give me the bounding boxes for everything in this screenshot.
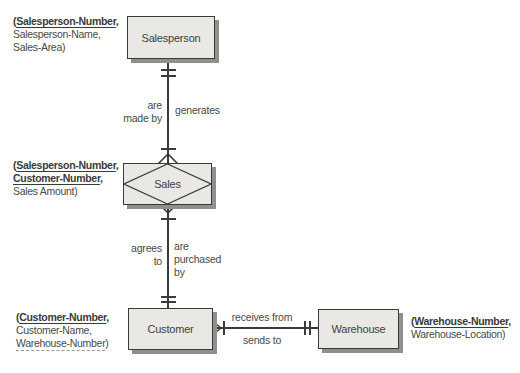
- relationship-label-sends-to: sends to: [219, 334, 305, 347]
- entity-salesperson-label: Salesperson: [139, 32, 204, 44]
- entity-customer: Customer: [128, 308, 213, 350]
- entity-sales-label: Sales: [151, 178, 184, 190]
- attribute-line: Customer-Number,: [13, 172, 118, 185]
- entity-customer-label: Customer: [144, 323, 196, 335]
- entity-warehouse-label: Warehouse: [328, 323, 388, 335]
- attribute-line: Customer-Name,: [16, 324, 109, 337]
- relationship-label-agrees-to: agrees to: [131, 242, 162, 268]
- customer-attribute-list: (Customer-Number, Customer-Name, Warehou…: [16, 311, 109, 350]
- primary-key-attribute: Warehouse-Number: [414, 315, 508, 327]
- entity-warehouse: Warehouse: [318, 309, 399, 349]
- relationship-label-are-made-by: are made by: [123, 99, 162, 125]
- primary-key-attribute: Salesperson-Number: [16, 15, 116, 27]
- attribute-line: (Salesperson-Number,: [13, 159, 118, 172]
- primary-key-attribute: Customer-Number: [13, 172, 100, 184]
- relationship-label-generates: generates: [175, 104, 220, 117]
- attribute-line: Salesperson-Name,: [13, 28, 118, 41]
- entity-sales: Sales: [123, 163, 212, 205]
- primary-key-attribute: Salesperson-Number: [16, 159, 116, 171]
- attribute-line: Sales-Area): [13, 41, 118, 54]
- entity-salesperson: Salesperson: [127, 16, 215, 59]
- attribute-line: (Warehouse-Number,: [411, 315, 511, 328]
- attribute-line: Warehouse-Number): [16, 337, 109, 350]
- attribute-line: (Customer-Number,: [16, 311, 109, 324]
- relationship-label-are-purchased-by: are purchased by: [174, 240, 221, 279]
- salesperson-attribute-list: (Salesperson-Number, Salesperson-Name, S…: [13, 15, 118, 54]
- attribute-line: Warehouse-Location): [411, 328, 511, 341]
- er-diagram-canvas: Salesperson Sales Customer Warehouse (Sa…: [0, 0, 520, 373]
- primary-key-attribute: Customer-Number: [19, 311, 106, 323]
- attribute-line: Sales Amount): [13, 185, 118, 198]
- attribute-line: (Salesperson-Number,: [13, 15, 118, 28]
- relationship-label-receives-from: receives from: [219, 311, 305, 324]
- foreign-key-attribute: Warehouse-Number: [16, 337, 105, 351]
- sales-attribute-list: (Salesperson-Number, Customer-Number, Sa…: [13, 159, 118, 198]
- warehouse-attribute-list: (Warehouse-Number, Warehouse-Location): [411, 315, 511, 341]
